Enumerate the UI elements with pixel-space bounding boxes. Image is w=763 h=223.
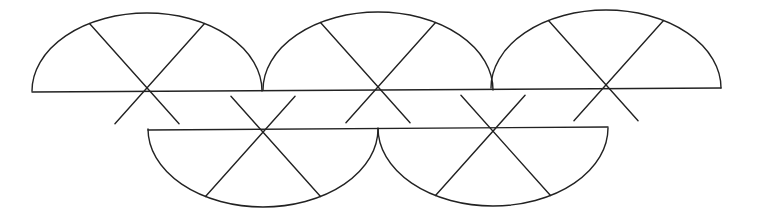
bottom-sector-arc-1 (378, 128, 608, 206)
bottom-sector-spoke-1-1 (436, 95, 526, 195)
top-sector-spoke-1-0 (346, 22, 436, 122)
top-sector-arc-0 (32, 13, 262, 91)
bottom-sector-arc-0 (148, 129, 378, 207)
top-sector-spoke-0-1 (90, 23, 180, 123)
top-sector-spoke-1-1 (321, 22, 411, 122)
top-sector-spoke-2-1 (549, 20, 639, 120)
top-sector-arc-1 (263, 12, 493, 90)
top-sector-spoke-2-0 (574, 20, 664, 120)
bottom-sector-spoke-0-0 (231, 96, 321, 196)
bottom-sector-spoke-1-0 (461, 95, 551, 195)
half-ellipse-chain-diagram (0, 0, 763, 223)
diagram-shapes (32, 10, 721, 207)
top-sector-arc-2 (491, 10, 721, 88)
bottom-sector-spoke-0-1 (206, 96, 296, 196)
top-sector-spoke-0-0 (115, 23, 205, 123)
